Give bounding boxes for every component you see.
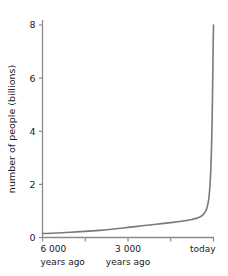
- y-tick-label: 2: [29, 179, 35, 190]
- y-tick-label: 4: [29, 126, 35, 137]
- x-tick-label: 6 000: [41, 244, 67, 254]
- x-tick-label: today: [190, 244, 216, 254]
- population-growth-chart: 02468 6 000years ago3 000years agotoday …: [0, 0, 228, 276]
- y-tick-label: 8: [29, 19, 35, 30]
- y-axis-title: number of people (billions): [6, 65, 17, 193]
- x-tick-sublabel: years ago: [41, 257, 86, 267]
- y-tick-label: 0: [29, 232, 35, 243]
- x-tick-label: 3 000: [115, 244, 141, 254]
- y-tick-label: 6: [29, 73, 35, 84]
- x-tick-sublabel: years ago: [106, 257, 151, 267]
- chart-canvas: 02468 6 000years ago3 000years agotoday …: [0, 0, 228, 276]
